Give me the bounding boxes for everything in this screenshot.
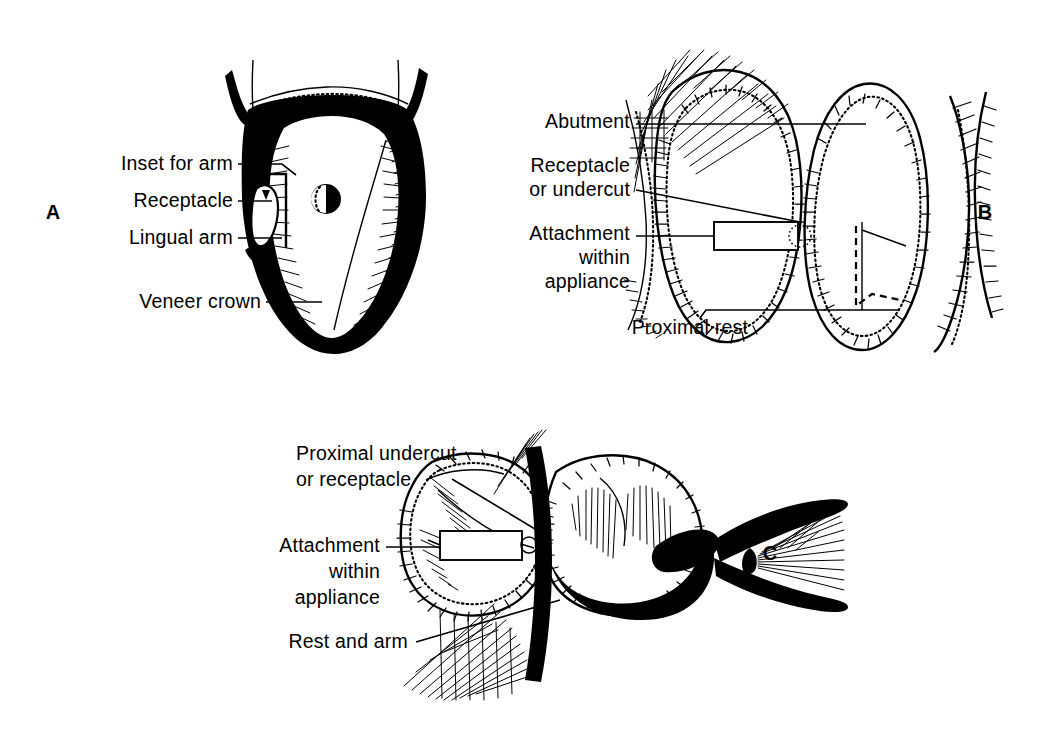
label-c-attachment-line1: Attachment: [279, 534, 380, 556]
label-c-proximal-undercut-line2: or receptacle: [296, 468, 411, 490]
label-b-receptacle-or-undercut-line1: Receptacle: [530, 154, 630, 176]
label-a-inset-for-arm: Inset for arm: [121, 152, 233, 174]
panel-letter-c: C: [763, 542, 777, 564]
label-a-receptacle: Receptacle: [133, 189, 233, 211]
attachment-box-b: [714, 222, 798, 250]
panel-letter-a: A: [46, 201, 60, 223]
label-b-attachment-line2: within: [578, 246, 630, 268]
label-b-attachment-line3: appliance: [545, 270, 630, 292]
attachment-box-c: [440, 531, 522, 560]
label-b-attachment-line1: Attachment: [529, 222, 630, 244]
label-c-attachment-line2: within: [328, 560, 380, 582]
dental-attachment-figure: Inset for armReceptacleLingual armVeneer…: [0, 0, 1040, 733]
label-c-rest-and-arm: Rest and arm: [289, 630, 408, 652]
figure-background: [0, 0, 1040, 733]
label-a-lingual-arm: Lingual arm: [129, 226, 233, 248]
label-c-proximal-undercut-line1: Proximal undercut: [296, 442, 457, 464]
label-c-attachment-line3: appliance: [295, 586, 380, 608]
label-a-veneer-crown: Veneer crown: [139, 290, 261, 312]
panel-letter-b: B: [978, 201, 992, 223]
label-b-proximal-rest: Proximal rest: [632, 316, 749, 338]
figure-canvas: Inset for armReceptacleLingual armVeneer…: [0, 0, 1040, 733]
label-b-abutment: Abutment: [545, 110, 630, 132]
label-b-receptacle-or-undercut-line2: or undercut: [529, 178, 630, 200]
tissue-line-right: [398, 60, 399, 110]
